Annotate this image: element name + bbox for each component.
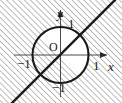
figure-canvas: y x 1 −1 1 −1 O	[0, 0, 122, 103]
tick-label-y-negative-one: −1	[52, 81, 66, 94]
origin-label: O	[49, 41, 58, 53]
tick-label-x-negative-one: −1	[17, 57, 31, 70]
tick-label-y-positive-one: 1	[68, 17, 75, 30]
tick-label-x-positive-one: 1	[93, 59, 100, 72]
x-axis-label: x	[108, 60, 114, 73]
y-axis-label: y	[57, 7, 63, 20]
